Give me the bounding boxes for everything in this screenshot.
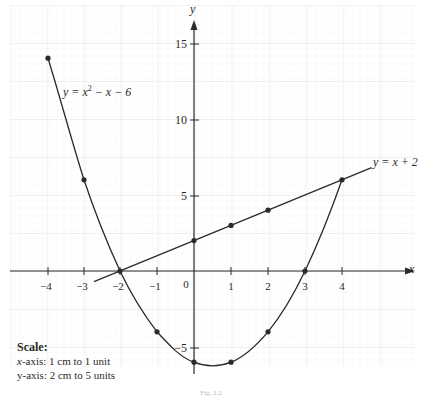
y-tick-label: −5 bbox=[165, 341, 187, 356]
y-tick-label: 15 bbox=[165, 37, 187, 52]
graph-paper-grid bbox=[10, 5, 415, 367]
x-axis-label: x bbox=[409, 262, 414, 277]
x-tick-label: 4 bbox=[339, 280, 345, 292]
eq-prefix: y = x bbox=[63, 85, 88, 99]
scale-x-text: -axis: 1 cm to 1 unit bbox=[22, 355, 110, 367]
y-axis-label: y bbox=[190, 2, 195, 17]
figure-caption: Fig. 2.2 bbox=[0, 389, 422, 397]
scale-y-text: -axis: 2 cm to 5 units bbox=[23, 369, 116, 381]
y-tick-label: 5 bbox=[165, 189, 187, 204]
x-tick-label: −2 bbox=[112, 280, 124, 292]
origin-label: 0 bbox=[183, 278, 189, 290]
scale-legend: Scale: x-axis: 1 cm to 1 unit y-axis: 2 … bbox=[17, 340, 115, 382]
x-tick-label: −3 bbox=[76, 280, 88, 292]
scale-y-axis: y-axis: 2 cm to 5 units bbox=[17, 368, 115, 382]
parabola-equation-label: y = x2 − x − 6 bbox=[63, 84, 131, 100]
scale-title: Scale: bbox=[17, 340, 115, 354]
scale-x-axis: x-axis: 1 cm to 1 unit bbox=[17, 354, 115, 368]
x-tick-label: −4 bbox=[40, 280, 52, 292]
x-tick-label: 2 bbox=[265, 280, 271, 292]
x-tick-label: 1 bbox=[228, 280, 234, 292]
x-tick-label: −1 bbox=[149, 280, 161, 292]
y-tick-label: 10 bbox=[165, 113, 187, 128]
x-tick-label: 3 bbox=[302, 280, 308, 292]
line-equation-label: y = x + 2 bbox=[373, 155, 418, 170]
eq-suffix: − x − 6 bbox=[92, 85, 132, 99]
